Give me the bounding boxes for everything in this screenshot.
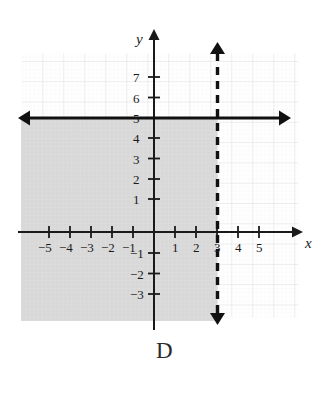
y-tick-label-7: 7: [133, 71, 140, 84]
x-tick-label-2: 2: [193, 241, 200, 254]
y-axis-arrowhead: [149, 29, 160, 40]
y-tick-label-neg2: −2: [130, 268, 144, 281]
y-tick-label-4: 4: [133, 132, 140, 145]
x-tick-label-4: 4: [235, 241, 242, 254]
x-tick-label-neg4: −4: [59, 241, 73, 254]
x-tick-label-neg3: −3: [80, 241, 94, 254]
x-tick-label-5: 5: [256, 241, 263, 254]
x-tick-label-neg1: −1: [122, 241, 136, 254]
x-tick-label-3: 3: [214, 241, 221, 254]
figure-caption-label: D: [0, 338, 329, 364]
top-arrowhead-x3: [210, 42, 225, 54]
y-tick-label-neg3: −3: [130, 288, 144, 301]
x-tick-label-neg2: −2: [101, 241, 115, 254]
y-tick-label-5: 5: [133, 112, 140, 125]
y-tick-label-2: 2: [133, 173, 140, 186]
x-tick-label-1: 1: [172, 241, 179, 254]
x-tick-label-neg5: −5: [38, 241, 52, 254]
graph-figure: 7 6 5 4 3 2 1 −1 −2 −3 −5 −4 −3 −2 −1 1 …: [0, 0, 329, 397]
y-tick-label-1: 1: [133, 193, 140, 206]
y-tick-label-3: 3: [133, 153, 140, 166]
y-axis-label: y: [136, 32, 143, 47]
y-tick-label-6: 6: [133, 92, 140, 105]
x-axis-label: x: [305, 236, 312, 251]
shaded-solution-region: [21, 118, 218, 321]
